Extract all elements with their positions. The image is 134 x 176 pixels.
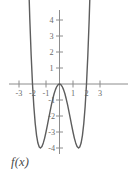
x-tick-label-3: 3 <box>98 89 102 98</box>
y-tick-label-neg3: -3 <box>48 128 55 137</box>
y-tick-label-1: 1 <box>49 64 53 73</box>
function-label: f(x) <box>11 155 29 170</box>
cartesian-plot: -3 -2 -1 1 2 3 4 3 2 1 -1 -2 -3 -4 <box>0 0 134 158</box>
x-tick-label-1: 1 <box>71 89 75 98</box>
y-tick-label-2: 2 <box>49 48 53 57</box>
y-tick-label-4: 4 <box>49 16 53 25</box>
y-tick-label-neg4: -4 <box>48 144 55 153</box>
y-tick-label-3: 3 <box>49 32 53 41</box>
function-graph-figure: -3 -2 -1 1 2 3 4 3 2 1 -1 -2 -3 -4 f(x) <box>0 0 134 176</box>
x-tick-label-neg3: -3 <box>16 89 23 98</box>
